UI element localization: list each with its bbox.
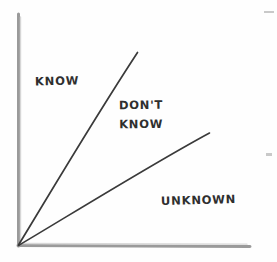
shallow-ray xyxy=(19,133,210,246)
label-dont-know: DON'T KNOW xyxy=(119,98,164,132)
horizontal-axis-shadow xyxy=(21,244,247,245)
sketch-diagram-canvas: KNOW DON'T KNOW UNKNOWN xyxy=(0,0,277,262)
label-dont-know-line2: KNOW xyxy=(119,117,163,132)
label-dont-know-line1: DON'T xyxy=(119,98,163,112)
label-know: KNOW xyxy=(35,74,79,89)
horizontal-axis xyxy=(18,246,250,247)
label-unknown: UNKNOWN xyxy=(161,192,237,208)
scan-artifact-top-right xyxy=(264,11,274,13)
scan-artifact-mid-right xyxy=(266,153,272,156)
